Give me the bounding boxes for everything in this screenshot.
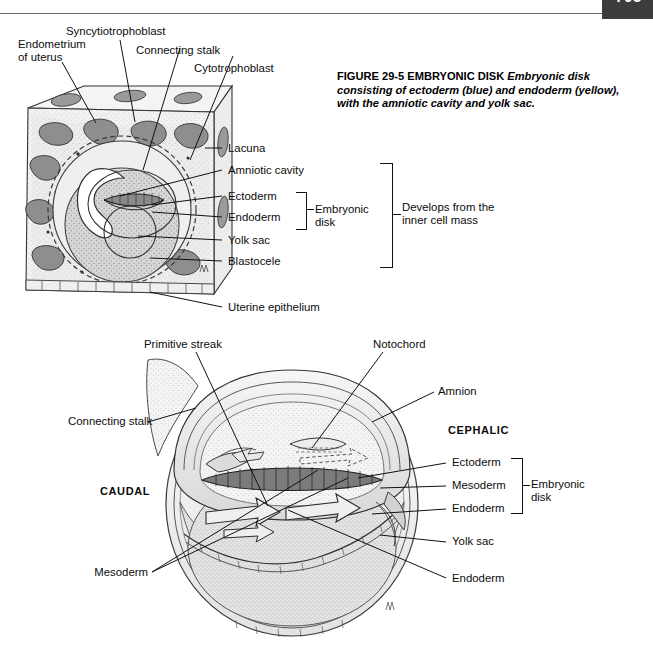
bracket-stub-inner-cell-mass: [392, 214, 401, 215]
label-embryonic-disk-bottom: Embryonic disk: [531, 478, 585, 504]
label-caudal: CAUDAL: [100, 485, 150, 498]
label-endoderm-right: Endoderm: [452, 502, 505, 515]
label-ectoderm-top: Ectoderm: [228, 190, 277, 203]
label-amniotic-cavity: Amniotic cavity: [228, 164, 304, 177]
label-endoderm-top: Endoderm: [228, 211, 281, 224]
label-cephalic: CEPHALIC: [448, 424, 509, 437]
label-connecting-stalk-top: Connecting stalk: [136, 44, 220, 57]
label-endoderm-bottom: Endoderm: [452, 572, 505, 585]
label-endometrium-of-uterus: Endometrium of uterus: [18, 38, 86, 64]
label-mesoderm-bottom: Mesoderm: [70, 566, 148, 579]
label-develops-inner-cell-mass: Develops from the inner cell mass: [402, 201, 494, 227]
label-primitive-streak: Primitive streak: [144, 338, 222, 351]
label-lacuna: Lacuna: [228, 142, 265, 155]
bracket-inner-cell-mass: [380, 163, 393, 268]
label-yolk-sac-bottom: Yolk sac: [452, 535, 494, 548]
label-embryonic-disk-top: Embryonic disk: [315, 203, 369, 229]
label-ectoderm-bottom: Ectoderm: [452, 456, 501, 469]
figure-page: 705 FIGURE 29-5 EMBRYONIC DISK Embryonic…: [0, 0, 653, 664]
bracket-stub-embryonic-disk-bottom: [522, 485, 530, 486]
label-cytotrophoblast: Cytotrophoblast: [194, 62, 274, 75]
label-syncytiotrophoblast: Syncytiotrophoblast: [66, 25, 165, 38]
top-leader-lines: [0, 0, 653, 340]
label-blastocele: Blastocele: [228, 255, 281, 268]
bracket-stub-embryonic-disk-top: [306, 209, 314, 210]
label-notochord: Notochord: [373, 338, 426, 351]
bracket-embryonic-disk-top: [296, 192, 307, 230]
label-amnion: Amnion: [438, 385, 477, 398]
label-mesoderm-right: Mesoderm: [452, 479, 506, 492]
label-yolk-sac-top: Yolk sac: [228, 234, 270, 247]
label-uterine-epithelium: Uterine epithelium: [228, 301, 320, 314]
label-connecting-stalk-bottom: Connecting stalk: [68, 415, 146, 428]
